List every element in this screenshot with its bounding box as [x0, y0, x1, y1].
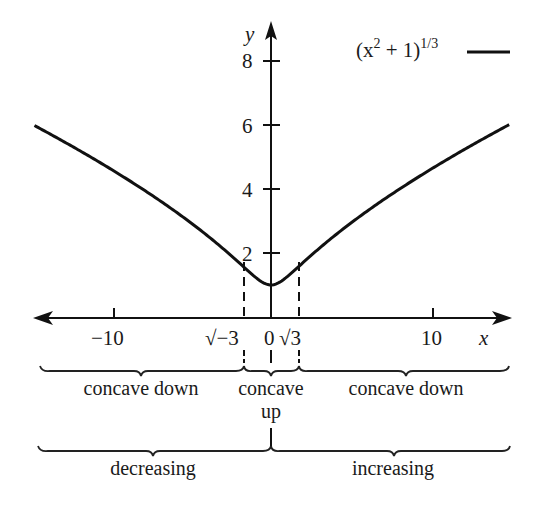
monotonicity-braces — [38, 446, 510, 456]
x-axis-label: x — [478, 326, 489, 350]
chart: y 8 6 4 2 −10 10 x √−3 0 √3 concave down… — [0, 0, 544, 513]
label-concave-down-left: concave down — [84, 377, 199, 399]
x-mark-label-zero: 0 — [264, 326, 275, 350]
label-up: up — [261, 400, 281, 423]
x-mark-label-pos-sqrt3: √3 — [279, 326, 301, 350]
y-axis-label: y — [243, 22, 255, 46]
x-mark-label-neg-sqrt3: √−3 — [205, 326, 239, 350]
label-concave-up: concave — [238, 377, 304, 399]
legend-label: (x2 + 1)1/3 — [356, 36, 438, 62]
label-increasing: increasing — [352, 457, 434, 480]
legend: (x2 + 1)1/3 — [356, 36, 510, 62]
concavity-braces — [40, 366, 509, 376]
y-tick-label-2: 2 — [242, 242, 253, 266]
y-tick-label-8: 8 — [242, 49, 253, 73]
x-tick-label-neg10: −10 — [91, 326, 124, 350]
y-tick-label-6: 6 — [242, 114, 253, 138]
label-decreasing: decreasing — [110, 457, 196, 480]
label-concave-down-right: concave down — [349, 377, 464, 399]
y-tick-label-4: 4 — [242, 178, 253, 202]
y-ticks: 8 6 4 2 — [242, 49, 280, 266]
x-tick-label-10: 10 — [421, 326, 442, 350]
